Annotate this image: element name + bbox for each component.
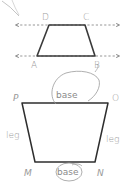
vertex-label-o: O	[112, 93, 119, 103]
vertex-label-c: C	[83, 12, 89, 22]
base-label-top: base	[56, 90, 78, 100]
corner-sketch-mark	[2, 1, 19, 16]
trapezoid-diagram: D C A B base base P O M N leg leg	[0, 0, 131, 184]
vertex-label-d: D	[42, 12, 49, 22]
trapezoid-abcd	[37, 25, 95, 56]
leg-label-right: leg	[106, 134, 119, 144]
vertex-label-m: M	[24, 168, 32, 178]
vertex-label-n: N	[97, 168, 104, 178]
vertex-label-p: P	[13, 93, 19, 103]
vertex-label-a: A	[31, 60, 37, 70]
trapezoid-mnop	[22, 103, 108, 162]
leg-label-left: leg	[6, 130, 19, 140]
base-label-bottom: base	[57, 167, 79, 177]
